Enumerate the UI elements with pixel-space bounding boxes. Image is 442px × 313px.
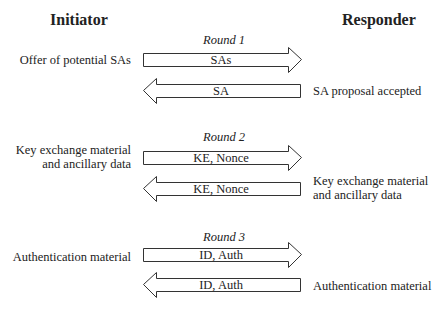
round-3-forward-message: ID, Auth bbox=[199, 248, 244, 262]
round-2-forward-message: KE, Nonce bbox=[193, 151, 249, 165]
message-arrows: SAs SA KE, Nonce KE, Nonce ID, Auth ID, … bbox=[0, 0, 442, 313]
round-1-forward-message: SAs bbox=[211, 53, 232, 67]
round-2-backward-message: KE, Nonce bbox=[193, 182, 249, 196]
round-1-backward-message: SA bbox=[213, 84, 229, 98]
round-3-backward-message: ID, Auth bbox=[199, 278, 244, 292]
